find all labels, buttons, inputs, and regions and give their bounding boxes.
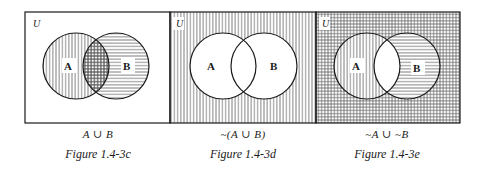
expression-d: ~(A ∪ B) — [170, 128, 316, 141]
caption-c: Figure 1.4-3c — [25, 147, 171, 162]
universe-label: U — [33, 18, 41, 29]
set-b-label: B — [270, 60, 278, 72]
figure-c: U A B — [25, 12, 170, 123]
universe-label: U — [176, 18, 184, 29]
set-a-label: A — [207, 60, 215, 72]
set-a-label: A — [64, 60, 72, 72]
expression-e: ~A ∪ ~B — [314, 128, 460, 141]
venn-diagram-strip: U A B U A B U A B — [0, 0, 485, 170]
figure-d: U A B — [170, 12, 316, 123]
caption-d: Figure 1.4-3d — [170, 147, 316, 162]
set-a-label: A — [352, 60, 360, 72]
caption-e: Figure 1.4-3e — [314, 147, 460, 162]
figure-e: U A B — [316, 12, 460, 123]
set-b-label: B — [123, 60, 131, 72]
expression-c: A ∪ B — [25, 128, 171, 141]
universe-label: U — [322, 18, 330, 29]
set-b-label: B — [413, 62, 421, 74]
